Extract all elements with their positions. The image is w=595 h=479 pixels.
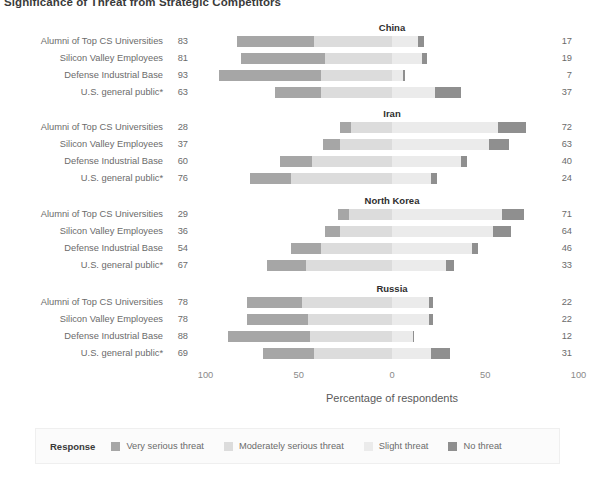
- legend-label: Very serious threat: [126, 441, 204, 451]
- bar-segment: [306, 260, 392, 271]
- bar-segment: [219, 70, 322, 81]
- axis-tick: 100: [559, 370, 595, 380]
- legend-label: Moderately serious threat: [239, 441, 344, 451]
- chart-row: Defense Industrial Base5446: [0, 240, 595, 257]
- chart-row: Alumni of Top CS Universities7822: [0, 294, 595, 311]
- bar-segment: [247, 297, 303, 308]
- bar-segment: [392, 226, 493, 237]
- bar-segment: [314, 348, 392, 359]
- legend-items: Very serious threatModerately serious th…: [111, 441, 521, 451]
- bar-segment: [392, 331, 413, 342]
- bar-segment: [323, 139, 340, 150]
- bar-segment: [502, 209, 524, 220]
- legend-swatch-icon: [448, 442, 457, 451]
- bar-segment: [461, 156, 467, 167]
- bar-segment: [392, 260, 446, 271]
- legend-title: Response: [50, 441, 95, 452]
- chart-row: Defense Industrial Base8812: [0, 328, 595, 345]
- bar-segment: [291, 243, 321, 254]
- x-axis-label: Percentage of respondents: [197, 392, 587, 404]
- legend-swatch-icon: [224, 442, 233, 451]
- bar-segment: [291, 173, 392, 184]
- bar-segment: [250, 173, 291, 184]
- bar-segment: [392, 139, 489, 150]
- bar-track: [0, 87, 595, 98]
- bar-track: [0, 36, 595, 47]
- bar-segment: [325, 226, 340, 237]
- panel-title: China: [197, 22, 587, 33]
- bar-segment: [429, 297, 433, 308]
- legend-swatch-icon: [364, 442, 373, 451]
- legend-item[interactable]: Very serious threat: [111, 441, 204, 451]
- bar-segment: [429, 314, 433, 325]
- bar-track: [0, 70, 595, 81]
- bar-segment: [310, 331, 392, 342]
- bar-segment: [280, 156, 312, 167]
- bar-segment: [392, 209, 502, 220]
- bar-segment: [302, 297, 392, 308]
- bar-segment: [392, 243, 472, 254]
- chart-row: U.S. general public*6337: [0, 84, 595, 101]
- bar-track: [0, 173, 595, 184]
- bar-segment: [498, 122, 526, 133]
- panel-title: North Korea: [197, 195, 587, 206]
- legend-item[interactable]: Moderately serious threat: [224, 441, 344, 451]
- bar-segment: [321, 70, 392, 81]
- bar-segment: [237, 36, 313, 47]
- bar-segment: [263, 348, 313, 359]
- bar-segment: [321, 87, 392, 98]
- chart-root: Significance of Threat from Strategic Co…: [0, 0, 595, 479]
- bar-segment: [403, 70, 405, 81]
- axis-tick: 50: [465, 370, 505, 380]
- bar-segment: [241, 53, 325, 64]
- panel-title: Russia: [197, 283, 587, 294]
- bar-segment: [392, 53, 422, 64]
- bar-track: [0, 122, 595, 133]
- panel-rows: Alumni of Top CS Universities8317Silicon…: [0, 33, 595, 101]
- chart-row: Alumni of Top CS Universities8317: [0, 33, 595, 50]
- bar-segment: [392, 87, 435, 98]
- chart-row: Alumni of Top CS Universities2971: [0, 206, 595, 223]
- chart-row: Silicon Valley Employees8119: [0, 50, 595, 67]
- panel-rows: Alumni of Top CS Universities2872Silicon…: [0, 119, 595, 187]
- bar-segment: [431, 348, 450, 359]
- bar-segment: [349, 209, 392, 220]
- bar-segment: [321, 243, 392, 254]
- bar-segment: [472, 243, 478, 254]
- panel-rows: Alumni of Top CS Universities7822Silicon…: [0, 294, 595, 362]
- bar-track: [0, 260, 595, 271]
- bar-track: [0, 209, 595, 220]
- chart-row: Silicon Valley Employees3664: [0, 223, 595, 240]
- bar-segment: [275, 87, 322, 98]
- axis-tick: 100: [186, 370, 226, 380]
- legend-item[interactable]: Slight threat: [364, 441, 429, 451]
- bar-track: [0, 297, 595, 308]
- bar-track: [0, 226, 595, 237]
- bar-track: [0, 243, 595, 254]
- legend-item[interactable]: No threat: [448, 441, 501, 451]
- chart-row: Silicon Valley Employees3763: [0, 136, 595, 153]
- bar-segment: [340, 122, 351, 133]
- bar-track: [0, 314, 595, 325]
- bar-segment: [435, 87, 461, 98]
- bar-segment: [338, 209, 349, 220]
- bar-segment: [351, 122, 392, 133]
- bar-segment: [312, 156, 392, 167]
- bar-segment: [228, 331, 310, 342]
- bar-segment: [392, 122, 498, 133]
- bar-segment: [392, 173, 431, 184]
- bar-segment: [340, 226, 392, 237]
- axis-tick: 0: [372, 370, 412, 380]
- panel-title: Iran: [197, 108, 587, 119]
- chart-row: U.S. general public*6733: [0, 257, 595, 274]
- bar-segment: [392, 36, 418, 47]
- bar-segment: [392, 348, 431, 359]
- x-axis: 10050050100: [0, 370, 595, 384]
- bar-segment: [340, 139, 392, 150]
- bar-segment: [247, 314, 309, 325]
- chart-row: Alumni of Top CS Universities2872: [0, 119, 595, 136]
- bar-track: [0, 139, 595, 150]
- chart-row: U.S. general public*6931: [0, 345, 595, 362]
- legend-label: No threat: [463, 441, 501, 451]
- bar-segment: [446, 260, 453, 271]
